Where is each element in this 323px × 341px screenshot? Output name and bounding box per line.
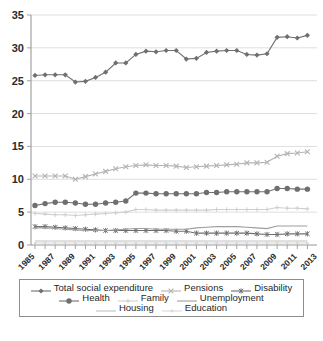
x-axis-tick-label: 2001 bbox=[177, 251, 198, 272]
legend-marker-none-icon bbox=[96, 303, 116, 313]
legend-item-education[interactable]: Education bbox=[162, 303, 227, 313]
y-axis-tick-label: 5 bbox=[18, 206, 24, 218]
x-axis-tick-label: 1989 bbox=[56, 251, 77, 272]
legend-marker-diamond-icon bbox=[31, 283, 51, 293]
chart-legend: Total social expenditurePensionsDisabili… bbox=[19, 279, 304, 317]
x-axis-tick-label: 2005 bbox=[218, 251, 239, 272]
y-axis-tick-label: 25 bbox=[12, 75, 24, 87]
legend-key-icon bbox=[59, 296, 79, 306]
x-axis-tick-label: 2003 bbox=[198, 251, 219, 272]
legend-row-2: HealthFamilyUnemployment bbox=[22, 293, 301, 303]
x-axis-labels: 1985198719891991199319951997199920012003… bbox=[16, 251, 319, 272]
y-axis-tick-label: 30 bbox=[12, 42, 24, 54]
x-axis-ticks bbox=[35, 245, 307, 249]
series-total-social-expenditure bbox=[32, 33, 310, 85]
series-education bbox=[34, 242, 309, 245]
legend-key-icon bbox=[96, 306, 116, 316]
series-health bbox=[32, 186, 310, 208]
legend-key-icon bbox=[31, 286, 51, 296]
legend-item-housing[interactable]: Housing bbox=[96, 303, 154, 313]
legend-marker-dot-small-icon bbox=[162, 303, 182, 313]
x-axis-tick-label: 1985 bbox=[16, 251, 37, 272]
y-axis-ticks bbox=[27, 15, 31, 245]
x-axis-tick-label: 2009 bbox=[258, 251, 279, 272]
chart-canvas: 05101520253035 1985198719891991199319951… bbox=[0, 0, 323, 275]
x-axis-tick-label: 1997 bbox=[137, 251, 158, 272]
legend-label: Education bbox=[185, 303, 227, 313]
line-chart: 05101520253035 1985198719891991199319951… bbox=[0, 0, 323, 275]
y-axis-tick-label: 20 bbox=[12, 108, 24, 120]
legend-label: Health bbox=[82, 293, 109, 303]
legend-label: Housing bbox=[119, 303, 154, 313]
legend-marker-circle-icon bbox=[59, 293, 79, 303]
legend-item-health[interactable]: Health bbox=[59, 293, 109, 303]
x-axis-tick-label: 2013 bbox=[298, 251, 319, 272]
series-lines bbox=[32, 33, 310, 245]
x-axis-tick-label: 1993 bbox=[97, 251, 118, 272]
chart-page: 05101520253035 1985198719891991199319951… bbox=[0, 0, 323, 341]
x-axis-tick-label: 1999 bbox=[157, 251, 178, 272]
y-axis-tick-label: 15 bbox=[12, 140, 24, 152]
series-disability bbox=[33, 224, 310, 237]
x-axis-tick-label: 1991 bbox=[76, 251, 97, 272]
y-axis-tick-label: 0 bbox=[18, 239, 24, 251]
y-axis-labels: 05101520253035 bbox=[12, 9, 24, 251]
x-axis-tick-label: 2007 bbox=[238, 251, 259, 272]
y-axis-tick-label: 35 bbox=[12, 9, 24, 21]
gridlines bbox=[31, 15, 317, 212]
x-axis-tick-label: 1987 bbox=[36, 251, 57, 272]
series-family bbox=[33, 205, 310, 217]
x-axis-tick-label: 1995 bbox=[117, 251, 138, 272]
legend-key-icon bbox=[162, 306, 182, 316]
series-pensions bbox=[33, 149, 310, 181]
y-axis-tick-label: 10 bbox=[12, 173, 24, 185]
x-axis-tick-label: 2011 bbox=[279, 251, 299, 271]
